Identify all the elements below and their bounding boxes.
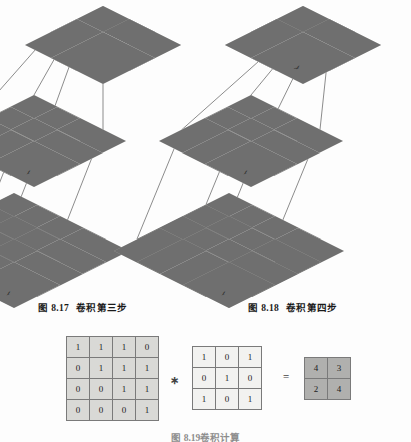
matrix-cell: 1 (136, 379, 159, 400)
caption-figure-8-18: 图8.18卷积第四步 (248, 300, 338, 314)
matrix-cell: 1 (67, 337, 90, 358)
matrix-cell: 0 (136, 337, 159, 358)
grid-cell-value: 4 (299, 55, 308, 61)
matrix-cell: 1 (136, 358, 159, 379)
matrix-cell: 1 (113, 337, 136, 358)
caption-left-text: 卷积第三步 (76, 303, 128, 313)
matrix-row: 0011 (67, 379, 159, 400)
equals-operator: = (283, 370, 289, 382)
caption-right-number: 8.18 (261, 303, 279, 313)
matrix-cell: 1 (239, 347, 262, 368)
caption-right-label: 图 (248, 303, 258, 313)
matrix-cell: 0 (216, 347, 239, 368)
caption-left-number: 8.17 (51, 303, 69, 313)
matrix-row: 1110 (67, 337, 159, 358)
grid-cell-value: 1 (225, 282, 234, 288)
matrix-row: 101 (193, 347, 262, 368)
matrix-cell: 0 (193, 368, 216, 389)
matrix-cell: 1 (90, 337, 113, 358)
matrix-cell: 0 (90, 379, 113, 400)
matrix-cell: 1 (90, 358, 113, 379)
matrix-cell: 0 (216, 389, 239, 410)
figure-page: 432 101010101 1110011100110001 4324 1010… (0, 0, 411, 442)
matrix-row: 101 (193, 389, 262, 410)
matrix-cell: 1 (113, 358, 136, 379)
matrix-cell: 0 (239, 368, 262, 389)
matrix-cell: 1 (193, 389, 216, 410)
caption-bottom-number: 8.19 (184, 433, 201, 442)
matrix-cell: 0 (90, 400, 113, 421)
matrix-cell: 4 (305, 358, 328, 379)
caption-bottom-text: 卷积计算 (200, 433, 240, 442)
convolve-operator: ∗ (170, 374, 179, 387)
caption-right-text: 卷积第四步 (286, 303, 338, 313)
equation-input-matrix: 1110011100110001 (66, 336, 159, 421)
matrix-row: 43 (305, 358, 351, 379)
matrix-cell: 1 (239, 389, 262, 410)
convolution-equation: 1110011100110001 ∗ 101010101 = 4324 (0, 333, 411, 428)
diagram-convolution-step-4: 4324 101010101 1110011100110001 (205, 0, 411, 300)
matrix-cell: 2 (305, 379, 328, 400)
matrix-row: 0111 (67, 358, 159, 379)
caption-figure-8-19: 图8.19卷积计算 (0, 430, 411, 442)
matrix-cell: 0 (67, 400, 90, 421)
grid-cell-value: 1 (247, 161, 256, 167)
grid-cell-value: 1 (30, 161, 39, 167)
matrix-row: 24 (305, 379, 351, 400)
equation-result-matrix: 4324 (304, 357, 351, 400)
matrix-cell: 0 (67, 379, 90, 400)
matrix-cell: 1 (193, 347, 216, 368)
matrix-cell: 0 (67, 358, 90, 379)
equation-kernel-matrix: 101010101 (192, 346, 262, 410)
matrix-cell: 1 (113, 379, 136, 400)
caption-left-label: 图 (38, 303, 48, 313)
matrix-cell: 0 (113, 400, 136, 421)
matrix-cell: 1 (136, 400, 159, 421)
matrix-cell: 1 (216, 368, 239, 389)
caption-figure-8-17: 图8.17卷积第三步 (38, 300, 128, 314)
matrix-row: 0001 (67, 400, 159, 421)
matrix-cell: 4 (328, 379, 351, 400)
grid-cell-value: 1 (10, 282, 19, 288)
matrix-cell: 3 (328, 358, 351, 379)
matrix-row: 010 (193, 368, 262, 389)
caption-bottom-label: 图 (171, 433, 181, 442)
